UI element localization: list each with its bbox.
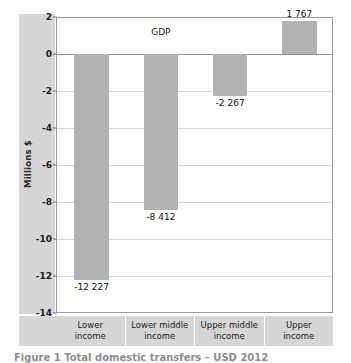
- bar: [144, 54, 179, 210]
- figure-caption: Figure 1 Total domestic transfers – USD …: [14, 352, 344, 363]
- series-annotation-label: GDP: [151, 27, 170, 37]
- x-axis-category-label-line: income: [283, 331, 314, 342]
- x-axis-category-label-line: income: [214, 331, 245, 342]
- y-axis-tick-label: -4: [22, 123, 52, 133]
- x-axis-category-3: Upper middleincome: [195, 316, 265, 346]
- bar: [282, 21, 317, 54]
- x-axis-category-4: Upperincome: [265, 316, 334, 346]
- chart-figure: Millions $ 20-2-4-6-8-10-12-14 -12 227-8…: [0, 0, 351, 363]
- y-axis-tick-label: -8: [22, 197, 52, 207]
- x-axis-category-2: Lower middleincome: [126, 316, 196, 346]
- x-axis-category-strip: LowerincomeLower middleincomeUpper middl…: [56, 316, 333, 346]
- bar-value-label: -2 267: [216, 98, 245, 108]
- x-axis-category-label-line: Upper: [286, 320, 312, 331]
- x-axis-category-label-line: income: [144, 331, 175, 342]
- bar-value-label: -8 412: [146, 212, 175, 222]
- bar-value-label: 1 767: [286, 9, 312, 19]
- bar: [74, 54, 109, 280]
- y-axis-tick-label: -6: [22, 160, 52, 170]
- x-axis-category-label-line: income: [75, 331, 106, 342]
- bar-value-label: -12 227: [74, 282, 109, 292]
- x-axis-category-label-line: Lower middle: [131, 320, 188, 331]
- y-axis-tick-label: -2: [22, 86, 52, 96]
- x-axis-category-label-line: Lower: [78, 320, 103, 331]
- y-axis-tick-label: -12: [22, 271, 52, 281]
- plot-area: -12 227-8 412-2 2671 767 GDP: [56, 17, 333, 313]
- category-strip-stub: [19, 316, 56, 346]
- y-axis-tick-label: -10: [22, 234, 52, 244]
- x-axis-category-1: Lowerincome: [56, 316, 126, 346]
- y-axis-tick-label: 2: [22, 12, 52, 22]
- y-axis-tick-label: 0: [22, 49, 52, 59]
- x-axis-category-label-line: Upper middle: [201, 320, 258, 331]
- bar: [213, 54, 248, 96]
